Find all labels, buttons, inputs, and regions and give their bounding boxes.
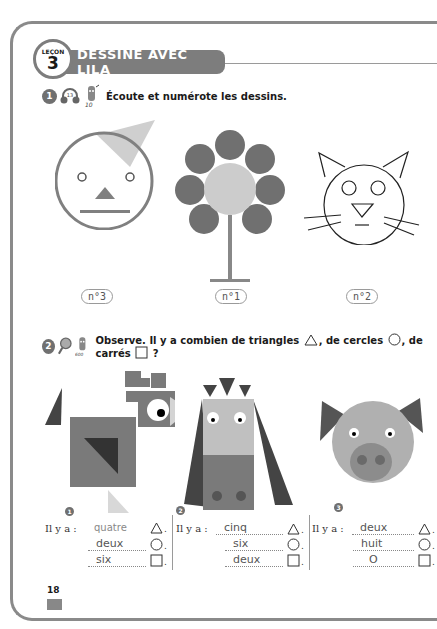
exercise-1-text: Écoute et numérote les dessins. (106, 91, 287, 102)
flower-drawing (172, 130, 292, 285)
il-y-a-label: Il y a : (45, 523, 88, 534)
il-y-a-label: Il y a : (176, 523, 216, 534)
square-icon (135, 346, 148, 359)
answer-triangles[interactable]: cinq (216, 522, 283, 535)
flower-label: n°1 (215, 289, 247, 304)
cow-figure (183, 375, 303, 510)
exercise-number: 2 (42, 339, 55, 354)
pig-figure (317, 398, 432, 498)
cat-drawing (300, 145, 425, 245)
triangle-icon (150, 522, 163, 534)
exercise-2-text: Observe. Il y a combien de triangles , d… (95, 333, 437, 359)
answer-squares[interactable]: deux (225, 554, 283, 567)
il-y-a-label: Il y a : (312, 523, 352, 534)
answer-triangles: quatre (88, 522, 146, 534)
exercise-number: 1 (42, 89, 57, 104)
bird-figure (45, 370, 175, 515)
square-icon (418, 554, 431, 567)
svg-text:10: 10 (85, 101, 93, 108)
pencil-mascot-icon: 600 (75, 334, 91, 358)
answer-circles[interactable]: huit (353, 538, 414, 551)
answer-squares[interactable]: six (88, 554, 146, 567)
face-drawing (55, 120, 165, 230)
square-icon (287, 554, 300, 567)
svg-text:600: 600 (75, 352, 84, 357)
magnifier-icon (58, 336, 72, 356)
circle-icon (418, 538, 431, 551)
answer-circles[interactable]: deux (88, 538, 146, 551)
circle-icon (388, 333, 401, 346)
triangle-icon (304, 334, 318, 346)
circle-icon (150, 538, 163, 551)
lesson-number: 3 (47, 55, 59, 72)
lesson-badge: LEÇON 3 (33, 39, 73, 79)
svg-text:13: 13 (67, 92, 73, 98)
triangle-icon (418, 523, 431, 535)
figure-number: 1 (65, 507, 74, 516)
answer-circles[interactable]: six (225, 538, 283, 551)
column-divider (309, 515, 310, 570)
face-label: n°3 (81, 289, 113, 304)
headphones-icon: 13 (60, 87, 80, 105)
figure-number: 2 (176, 506, 185, 515)
square-icon (150, 554, 163, 567)
cat-label: n°2 (346, 289, 378, 304)
pencil-mascot-icon: 10 (83, 84, 101, 108)
answer-triangles[interactable]: deux (352, 522, 414, 535)
page-tab (47, 599, 62, 610)
circle-icon (287, 538, 300, 551)
lesson-title-bar: DESSINE AVEC LILA (51, 50, 225, 74)
exercise-2-instruction: 2 600 Observe. Il y a combien de triangl… (42, 333, 437, 359)
lesson-title: DESSINE AVEC LILA (77, 47, 225, 77)
lesson-header: DESSINE AVEC LILA LEÇON 3 (33, 45, 437, 79)
page-number: 18 (47, 585, 60, 595)
column-divider (172, 515, 173, 570)
triangle-icon (287, 523, 300, 535)
answer-squares[interactable]: O (353, 554, 414, 567)
figure-number: 3 (334, 503, 343, 512)
exercise-1-instruction: 1 13 10 Écoute et numérote les dessins. (42, 84, 287, 108)
header-rule (225, 63, 437, 64)
